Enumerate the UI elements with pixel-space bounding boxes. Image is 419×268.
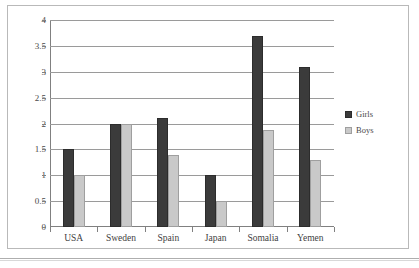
chart-figure: 00.511.522.533.54 USASwedenSpainJapanSom… (0, 0, 419, 268)
x-tick-mark (145, 227, 146, 232)
x-tick-mark (50, 227, 51, 232)
gridline (50, 46, 334, 47)
y-tick-mark (42, 124, 46, 125)
x-tick-label-sweden: Sweden (106, 233, 136, 243)
y-tick-mark (42, 149, 46, 150)
footer-divider (0, 258, 419, 259)
y-tick-mark (42, 175, 46, 176)
gridline (50, 175, 334, 176)
y-tick-mark (42, 201, 46, 202)
gridline (50, 98, 334, 99)
gridline (50, 124, 334, 125)
x-tick-mark (97, 227, 98, 232)
plot-area (50, 20, 334, 227)
gridline (50, 20, 334, 21)
x-tick-mark (239, 227, 240, 232)
legend-swatch-girls-icon (345, 111, 352, 118)
legend-swatch-boys-icon (345, 127, 352, 134)
x-tick-label-yemen: Yemen (297, 233, 323, 243)
gridline (50, 201, 334, 202)
y-tick-mark (42, 227, 46, 228)
legend-item-boys: Boys (345, 122, 401, 138)
legend-item-girls: Girls (345, 106, 401, 122)
gridline (50, 149, 334, 150)
x-tick-mark (287, 227, 288, 232)
y-axis: 00.511.522.533.54 (24, 20, 46, 227)
x-tick-label-usa: USA (64, 233, 83, 243)
x-tick-label-somalia: Somalia (247, 233, 278, 243)
y-tick-mark (42, 72, 46, 73)
y-tick-mark (42, 98, 46, 99)
x-tick-mark (334, 227, 335, 232)
chart-legend: GirlsBoys (345, 106, 401, 138)
x-tick-label-japan: Japan (205, 233, 227, 243)
y-tick-mark (42, 46, 46, 47)
legend-label: Girls (356, 110, 373, 119)
footer-divider-secondary (0, 260, 419, 261)
legend-label: Boys (356, 126, 373, 135)
gridline (50, 72, 334, 73)
y-tick-mark (42, 20, 46, 21)
x-tick-mark (192, 227, 193, 232)
x-tick-label-spain: Spain (158, 233, 180, 243)
